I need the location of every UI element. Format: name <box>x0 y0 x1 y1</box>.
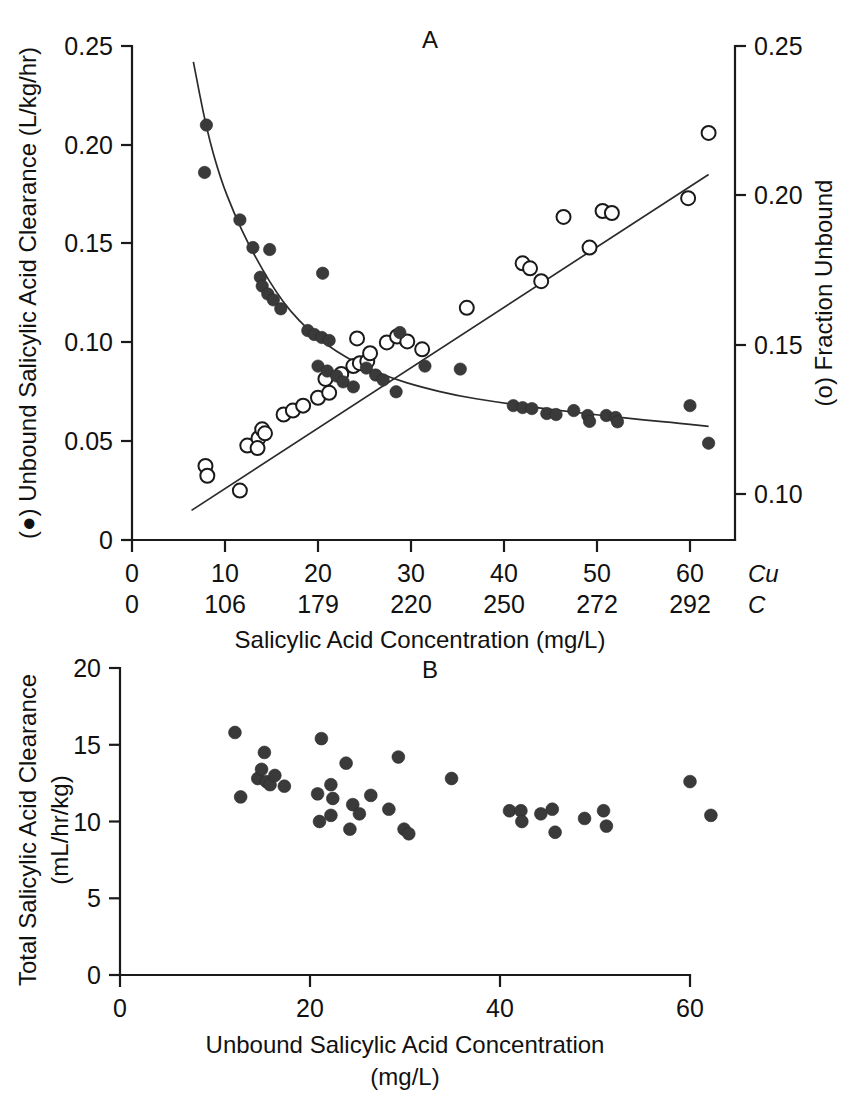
panel-a-cu-0: 0 <box>125 559 139 587</box>
panel-b-y-ticks <box>109 668 120 975</box>
panel-a-cu-10: 10 <box>211 559 239 587</box>
data-point-filled <box>597 804 610 817</box>
data-point-filled <box>702 437 714 449</box>
data-point-filled <box>578 812 591 825</box>
figure-svg: A 0 0.05 0.10 0.15 0.20 0.25 <box>0 0 856 1104</box>
panel-a-cu-60: 60 <box>676 559 704 587</box>
data-point-filled <box>234 214 246 226</box>
data-point-filled <box>705 809 718 822</box>
panel-b-y-tick-20: 20 <box>73 654 101 682</box>
panel-a-left-ticks <box>121 46 132 540</box>
figure-container: A 0 0.05 0.10 0.15 0.20 0.25 <box>0 0 856 1104</box>
data-point-filled <box>454 363 466 375</box>
data-point-filled <box>392 751 405 764</box>
data-point-filled <box>326 792 339 805</box>
data-point-open <box>322 386 336 400</box>
data-point-filled <box>382 803 395 816</box>
panel-a: A 0 0.05 0.10 0.15 0.20 0.25 <box>14 26 837 653</box>
panel-a-left-tick-015: 0.15 <box>64 229 113 257</box>
data-point-open <box>258 426 272 440</box>
data-point-filled <box>515 815 528 828</box>
data-point-filled <box>583 415 595 427</box>
panel-b: B 20 15 10 5 0 0 <box>14 654 717 1090</box>
data-point-open <box>251 441 265 455</box>
data-point-open <box>233 484 247 498</box>
panel-a-letter: A <box>422 26 438 53</box>
panel-a-x-axis-title: Salicylic Acid Concentration (mg/L) <box>235 626 606 653</box>
panel-a-cu-20: 20 <box>304 559 332 587</box>
panel-b-filled-points <box>229 726 718 840</box>
data-point-filled <box>325 778 338 791</box>
panel-b-x-tick-20: 20 <box>296 994 324 1022</box>
panel-a-left-tick-0: 0 <box>99 526 113 554</box>
panel-a-c-272: 272 <box>576 590 618 618</box>
panel-a-right-tick-020: 0.20 <box>754 181 803 209</box>
data-point-open <box>460 301 474 315</box>
data-point-open <box>415 342 429 356</box>
data-point-open <box>605 206 619 220</box>
panel-a-c-250: 250 <box>483 590 525 618</box>
data-point-filled <box>611 416 623 428</box>
panel-b-y-axis-title-line2: (mL/hr/kg) <box>46 775 73 884</box>
data-point-filled <box>549 826 562 839</box>
data-point-filled <box>546 803 559 816</box>
panel-a-right-axis-title: (o) Fraction Unbound <box>810 180 837 407</box>
panel-b-y-tick-15: 15 <box>73 731 101 759</box>
data-point-filled <box>229 726 242 739</box>
panel-a-c-220: 220 <box>390 590 432 618</box>
data-point-filled <box>445 772 458 785</box>
data-point-filled <box>684 399 696 411</box>
panel-a-row-label-c: C <box>748 591 766 618</box>
data-point-open <box>534 274 548 288</box>
panel-b-x-tick-60: 60 <box>676 994 704 1022</box>
panel-a-filled-points <box>198 119 714 450</box>
data-point-filled <box>316 267 328 279</box>
data-point-filled <box>247 241 259 253</box>
panel-a-right-tick-010: 0.10 <box>754 480 803 508</box>
data-point-filled <box>347 381 359 393</box>
data-point-filled <box>568 404 580 416</box>
panel-b-letter: B <box>422 656 438 683</box>
data-point-open <box>702 126 716 140</box>
data-point-filled <box>198 166 210 178</box>
data-point-filled <box>684 775 697 788</box>
panel-b-x-tick-40: 40 <box>486 994 514 1022</box>
panel-a-left-tick-010: 0.10 <box>64 328 113 356</box>
panel-a-c-0: 0 <box>125 590 139 618</box>
panel-b-y-tick-0: 0 <box>87 961 101 989</box>
panel-a-right-tick-025: 0.25 <box>754 32 803 60</box>
data-point-filled <box>550 408 562 420</box>
panel-a-c-106: 106 <box>204 590 246 618</box>
data-point-open <box>681 191 695 205</box>
panel-b-y-axis-title-line1: Total Salicylic Acid Clearance <box>14 674 41 986</box>
data-point-filled <box>377 374 389 386</box>
panel-a-right-ticks <box>735 46 746 494</box>
panel-a-right-tick-015: 0.15 <box>754 331 803 359</box>
data-point-open <box>363 346 377 360</box>
data-point-filled <box>255 763 268 776</box>
panel-b-y-tick-5: 5 <box>87 884 101 912</box>
data-point-filled <box>323 334 335 346</box>
data-point-filled <box>402 827 415 840</box>
panel-a-c-292: 292 <box>669 590 711 618</box>
data-point-filled <box>394 326 406 338</box>
panel-b-x-tick-0: 0 <box>113 994 127 1022</box>
data-point-open <box>557 210 571 224</box>
data-point-filled <box>325 809 338 822</box>
data-point-filled <box>503 804 516 817</box>
data-point-open <box>583 241 597 255</box>
data-point-open <box>350 331 364 345</box>
panel-a-left-tick-020: 0.20 <box>64 131 113 159</box>
data-point-open <box>296 399 310 413</box>
data-point-filled <box>315 732 328 745</box>
data-point-filled <box>534 807 547 820</box>
fraction-unbound-line <box>192 174 709 510</box>
panel-a-c-179: 179 <box>297 590 339 618</box>
panel-b-x-axis-title-line2: (mg/L) <box>370 1063 439 1090</box>
panel-b-x-axis-title-line1: Unbound Salicylic Acid Concentration <box>206 1031 605 1058</box>
panel-a-x-labels-cu: 0 10 20 30 40 50 60 Cu <box>125 559 779 587</box>
panel-a-row-label-cu: Cu <box>748 560 779 587</box>
data-point-open <box>200 469 214 483</box>
data-point-filled <box>258 746 271 759</box>
data-point-filled <box>390 386 402 398</box>
